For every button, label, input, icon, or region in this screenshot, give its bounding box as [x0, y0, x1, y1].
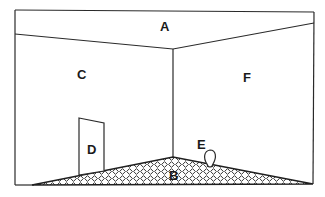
- label-floor: B: [169, 168, 178, 183]
- label-ceiling: A: [160, 19, 170, 34]
- label-object: E: [197, 137, 206, 152]
- room-diagram-svg: A C F D E B: [0, 0, 325, 197]
- label-door: D: [87, 142, 96, 157]
- label-right-wall: F: [243, 70, 251, 85]
- room-diagram: A C F D E B: [0, 0, 325, 197]
- label-left-wall: C: [77, 67, 87, 82]
